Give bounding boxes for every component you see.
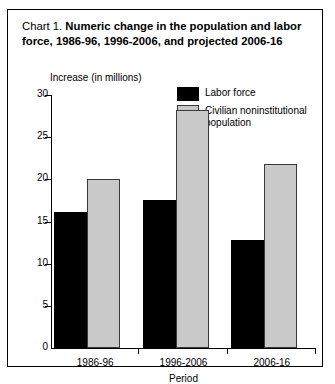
y-tick-label: 15	[37, 215, 48, 226]
x-category-label-2006-16: 2006-16	[228, 357, 316, 368]
y-tick-20: 20	[51, 179, 52, 180]
y-axis-label: Increase (in millions)	[50, 72, 142, 83]
chart-title-prefix: Chart 1.	[22, 20, 62, 32]
x-category-label-1996-2006: 1996-2006	[139, 357, 227, 368]
y-tick-label: 5	[42, 299, 48, 310]
x-axis-label: Period	[51, 373, 316, 384]
chart-title-line3: 2006-16	[241, 35, 282, 47]
chart-title: Chart 1. Numeric change in the populatio…	[22, 19, 302, 48]
y-tick-label: 25	[37, 130, 48, 141]
x-tick-mark	[138, 348, 139, 354]
plot-area: 302520151050 1986-961996-20062006-16 Per…	[51, 95, 316, 348]
y-tick-5: 5	[51, 306, 52, 307]
bar-civilian-population-2006-16	[264, 164, 297, 348]
y-tick-30: 30	[51, 95, 52, 96]
x-axis-line	[51, 348, 316, 349]
bar-civilian-population-1996-2006	[176, 110, 209, 348]
y-tick-0: 0	[51, 348, 52, 349]
x-tick-mark	[315, 348, 316, 354]
y-tick-15: 15	[51, 222, 52, 223]
bar-labor-force-1986-96	[54, 212, 87, 348]
y-tick-label: 20	[37, 172, 48, 183]
y-tick-label: 30	[37, 88, 48, 99]
chart-frame: Chart 1. Numeric change in the populatio…	[7, 9, 323, 367]
y-tick-label: 10	[37, 257, 48, 268]
x-tick-mark	[227, 348, 228, 354]
y-tick-25: 25	[51, 137, 52, 138]
bar-labor-force-2006-16	[231, 240, 264, 348]
y-tick-label: 0	[42, 341, 48, 352]
chart-title-line1: Numeric change in the population and	[65, 20, 270, 32]
bar-civilian-population-1986-96	[87, 179, 120, 349]
x-category-label-1986-96: 1986-96	[51, 357, 139, 368]
bar-labor-force-1996-2006	[143, 200, 176, 348]
y-tick-10: 10	[51, 264, 52, 265]
